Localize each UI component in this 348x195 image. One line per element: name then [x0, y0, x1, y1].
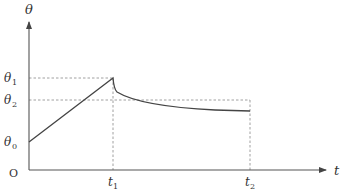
t2-subscript: 2: [250, 182, 255, 191]
tick-theta2: θ 2: [4, 93, 17, 109]
t1-subscript: 1: [113, 182, 118, 191]
theta0-symbol: θ: [4, 135, 12, 149]
theta1-subscript: 1: [12, 78, 17, 87]
theta0-subscript: 0: [12, 142, 17, 151]
theta2-subscript: 2: [12, 100, 17, 109]
tick-theta1: θ 1: [4, 71, 17, 87]
tick-t1: t 1: [108, 175, 118, 191]
tick-theta0: θ 0: [4, 135, 17, 151]
y-axis-label: θ: [25, 2, 33, 17]
guide-lines: [29, 78, 250, 170]
theta1-symbol: θ: [4, 71, 12, 85]
x-axis-label: t: [334, 163, 340, 178]
theta-curve: [29, 78, 250, 142]
theta-time-diagram: θ t O θ 1 θ 2 θ 0 t 1 t 2: [0, 0, 348, 195]
tick-t2: t 2: [245, 175, 255, 191]
origin-label: O: [9, 167, 18, 180]
theta2-symbol: θ: [4, 93, 12, 107]
axes: [29, 22, 326, 170]
